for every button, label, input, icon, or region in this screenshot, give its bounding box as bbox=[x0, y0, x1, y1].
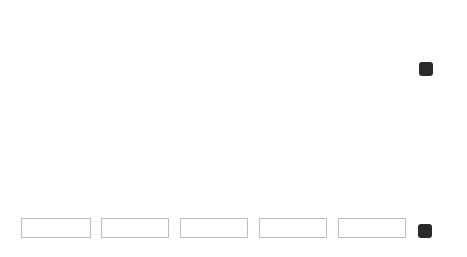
answer-box-4 bbox=[259, 218, 327, 238]
answer-box-1[interactable] bbox=[21, 218, 91, 238]
answer-box-5 bbox=[338, 218, 406, 238]
question-number-badge-6 bbox=[418, 224, 432, 238]
answer-box-3 bbox=[180, 218, 248, 238]
answer-box-2 bbox=[101, 218, 169, 238]
question-number-badge-5 bbox=[419, 62, 433, 76]
